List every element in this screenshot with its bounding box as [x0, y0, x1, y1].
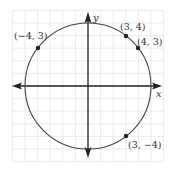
point-label-3-neg4: (3, −4) — [128, 139, 162, 150]
unit-circle-diagram: x y (−4, 3) (3, 4) (4, 3) (3, −4) — [0, 0, 173, 169]
point-3-4 — [124, 34, 128, 38]
x-axis-label: x — [156, 88, 162, 99]
point-label-3-4: (3, 4) — [120, 21, 146, 32]
point-neg4-3 — [36, 46, 40, 50]
diagram-canvas: x y (−4, 3) (3, 4) (4, 3) (3, −4) — [0, 0, 173, 169]
x-axis: x — [12, 83, 162, 100]
y-axis-label: y — [92, 12, 99, 23]
point-3-neg4 — [124, 134, 128, 138]
point-label-neg4-3: (−4, 3) — [14, 30, 48, 41]
point-label-4-3: (4, 3) — [137, 36, 163, 47]
